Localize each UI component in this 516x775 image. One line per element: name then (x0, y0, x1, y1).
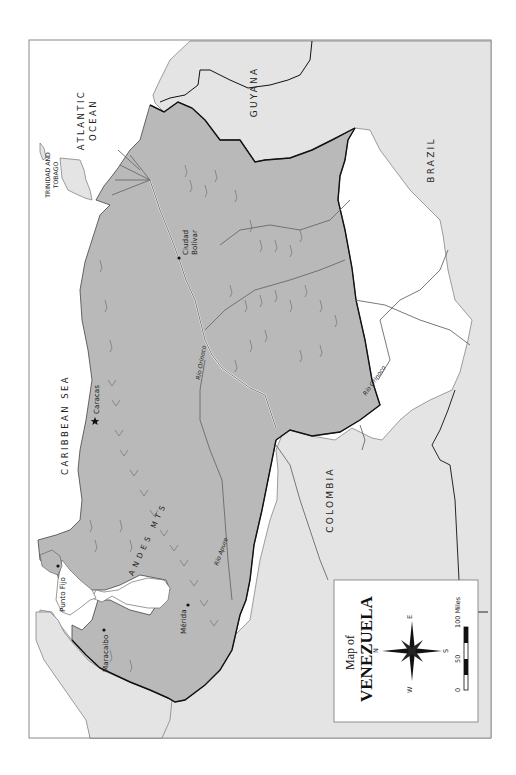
venezuela-map: ATLANTIC OCEAN GUYANA BRAZIL COLOMBIA TR… (0, 0, 516, 775)
merida-label: Mérida (179, 609, 188, 634)
punto-fijo-label: Punto Fijo (58, 577, 67, 612)
maracaibo-dot (102, 628, 105, 631)
compass-w-label: W (406, 686, 414, 693)
legend-box: Map of VENEZUELA E W N S 0 50 100 Miles (334, 580, 478, 722)
maracaibo-label: Maracaibo (101, 635, 110, 672)
ciudad-bolivar-label-2: Bolívar (190, 230, 199, 255)
guyana-label: GUYANA (249, 67, 259, 118)
caracas-label: Caracas (92, 385, 101, 414)
scale-label-0: 0 (454, 688, 462, 692)
ciudad-bolivar-label-1: Ciudad (181, 230, 190, 255)
legend-title-line1: Map of (343, 635, 357, 670)
trinidad-label-1: TRINIDAD AND (44, 152, 51, 199)
compass-e-label: E (406, 615, 414, 619)
brazil-label: BRAZIL (426, 137, 436, 182)
merida-dot (186, 603, 189, 606)
atlantic-label-2: OCEAN (88, 99, 98, 141)
trinidad-label-2: TOBAGO (52, 162, 59, 190)
compass-n-label: N (372, 648, 380, 653)
ciudad-bolivar-dot (177, 256, 180, 259)
atlantic-label-1: ATLANTIC (76, 90, 86, 150)
punto-fijo-dot (56, 564, 59, 567)
scale-label-50: 50 (454, 655, 462, 663)
scale-label-100: 100 Miles (454, 596, 462, 628)
colombia-label: COLOMBIA (325, 467, 335, 533)
compass-s-label: S (442, 649, 450, 653)
caribbean-label: CARIBBEAN SEA (60, 375, 70, 475)
